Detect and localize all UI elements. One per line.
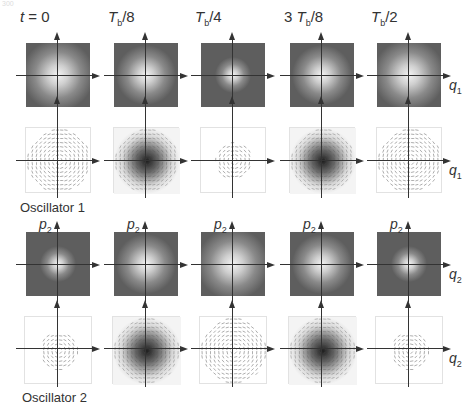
time-label-part: T [297, 8, 306, 25]
p2-axis-label: p2 [390, 216, 403, 235]
axis-arrow-right-icon [92, 346, 100, 352]
axis-arrow-up-icon [229, 300, 235, 308]
axis-arrow-up-icon [54, 300, 60, 308]
axis-sub: 1 [457, 171, 462, 181]
p2-axis-label: p2 [39, 216, 52, 235]
horizontal-axis [280, 264, 358, 265]
q-axis-label: q2 [449, 350, 462, 369]
vertical-axis [145, 102, 146, 198]
time-label-part: /8 [311, 8, 324, 25]
axis-arrow-right-icon [356, 346, 364, 352]
horizontal-axis [104, 75, 182, 76]
time-label-0: t = 0 [20, 8, 50, 28]
axis-arrow-right-icon [92, 73, 100, 79]
axis-arrow-right-icon [92, 158, 100, 164]
time-label-2: Tb/4 [195, 8, 222, 28]
oscillator-2-label: Oscillator 2 [22, 390, 87, 405]
vertical-axis [408, 306, 409, 387]
vertical-axis [408, 227, 409, 302]
oscillator-1-label: Oscillator 1 [20, 200, 85, 215]
axis-sub: 1 [457, 86, 462, 96]
axis-arrow-right-icon [92, 262, 100, 268]
horizontal-axis [280, 75, 358, 76]
axis-arrow-up-icon [54, 221, 60, 229]
axis-arrow-up-icon [405, 96, 411, 104]
axis-arrow-right-icon [356, 262, 364, 268]
axis-sub: 2 [135, 225, 140, 235]
vertical-axis [232, 227, 233, 302]
horizontal-axis [16, 264, 94, 265]
horizontal-axis [104, 264, 182, 265]
axis-sub: 2 [311, 225, 316, 235]
axis-var: p [214, 216, 222, 232]
axis-arrow-up-icon [318, 300, 324, 308]
axis-arrow-up-icon [229, 221, 235, 229]
vertical-axis [321, 306, 322, 387]
axis-sub: 2 [398, 225, 403, 235]
vertical-axis [232, 306, 233, 387]
horizontal-axis [16, 75, 94, 76]
time-label-4: Tb/2 [371, 8, 398, 28]
q-axis-label: q1 [449, 77, 462, 96]
axis-arrow-right-icon [180, 262, 188, 268]
axis-arrow-right-icon [267, 158, 275, 164]
horizontal-axis [191, 75, 269, 76]
q-axis-label: q1 [449, 162, 462, 181]
vertical-axis [321, 102, 322, 198]
horizontal-axis [16, 160, 94, 161]
horizontal-axis [280, 348, 358, 349]
horizontal-axis [191, 264, 269, 265]
vertical-axis [408, 102, 409, 198]
vertical-axis [57, 306, 58, 387]
axis-arrow-right-icon [180, 158, 188, 164]
axis-arrow-up-icon [54, 96, 60, 104]
time-label-part: = 0 [24, 8, 49, 25]
axis-arrow-up-icon [405, 300, 411, 308]
time-label-3: 3 Tb/8 [284, 8, 323, 28]
time-label-part: T [371, 8, 380, 25]
axis-arrow-right-icon [356, 73, 364, 79]
axis-arrow-right-icon [356, 158, 364, 164]
axis-var: q [449, 266, 457, 282]
axis-arrow-up-icon [142, 300, 148, 308]
axis-var: p [39, 216, 47, 232]
horizontal-axis [367, 160, 445, 161]
axis-arrow-up-icon [142, 96, 148, 104]
horizontal-axis [104, 160, 182, 161]
time-label-part: /4 [209, 8, 222, 25]
axis-arrow-up-icon [318, 96, 324, 104]
axis-arrow-up-icon [405, 32, 411, 40]
p2-axis-label: p2 [127, 216, 140, 235]
horizontal-axis [191, 348, 269, 349]
axis-arrow-right-icon [267, 346, 275, 352]
vertical-axis [145, 227, 146, 302]
axis-arrow-up-icon [54, 32, 60, 40]
horizontal-axis [367, 348, 445, 349]
horizontal-axis [104, 348, 182, 349]
axis-arrow-right-icon [267, 73, 275, 79]
axis-sub: 2 [222, 225, 227, 235]
axis-arrow-up-icon [318, 32, 324, 40]
axis-arrow-right-icon [267, 262, 275, 268]
vertical-axis [145, 306, 146, 387]
p2-axis-label: p2 [214, 216, 227, 235]
axis-arrow-up-icon [229, 32, 235, 40]
axis-sub: 2 [457, 275, 462, 285]
time-label-part: T [108, 8, 117, 25]
q-axis-label: q2 [449, 266, 462, 285]
time-label-part: /2 [385, 8, 398, 25]
time-label-part: /8 [122, 8, 135, 25]
axis-var: p [303, 216, 311, 232]
axis-arrow-right-icon [180, 346, 188, 352]
vertical-axis [57, 227, 58, 302]
horizontal-axis [191, 160, 269, 161]
vertical-axis [232, 102, 233, 198]
horizontal-axis [367, 75, 445, 76]
axis-var: p [127, 216, 135, 232]
axis-arrow-right-icon [180, 73, 188, 79]
axis-sub: 2 [47, 225, 52, 235]
axis-var: q [449, 162, 457, 178]
time-label-part: T [195, 8, 204, 25]
axis-var: q [449, 350, 457, 366]
vertical-axis [57, 102, 58, 198]
